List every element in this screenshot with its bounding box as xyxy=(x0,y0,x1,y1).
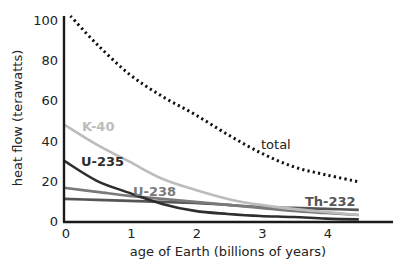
y-axis-title: heat flow (terawatts) xyxy=(10,50,25,186)
total-label: total xyxy=(261,137,291,152)
y-tick-label: 100 xyxy=(33,13,58,28)
series-lines xyxy=(64,16,359,219)
x-tick-label: 0 xyxy=(62,226,70,241)
u238-label: U-238 xyxy=(133,184,176,199)
x-tick-label: 3 xyxy=(258,226,266,241)
y-axis-ticks: 020406080100 xyxy=(33,13,58,229)
x-axis-ticks: 01234 xyxy=(62,226,332,241)
heat-flow-chart: 020406080100 01234 age of Earth (billion… xyxy=(0,0,417,273)
th232-label: Th-232 xyxy=(305,194,356,209)
y-tick-label: 80 xyxy=(41,53,58,68)
x-tick-label: 4 xyxy=(324,226,332,241)
y-tick-label: 40 xyxy=(41,134,58,149)
u235-label: U-235 xyxy=(81,154,124,169)
x-tick-label: 1 xyxy=(127,226,135,241)
y-tick-label: 0 xyxy=(50,214,58,229)
x-tick-label: 2 xyxy=(193,226,201,241)
y-tick-label: 60 xyxy=(41,93,58,108)
k40-label: K-40 xyxy=(82,119,114,134)
x-axis-title: age of Earth (billions of years) xyxy=(130,244,326,259)
y-tick-label: 20 xyxy=(41,174,58,189)
